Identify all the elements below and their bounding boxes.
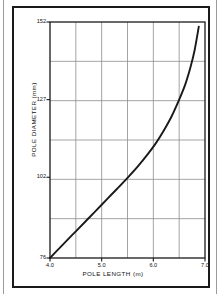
x-axis-title: POLE LENGTH (m) (14, 270, 212, 277)
y-tick-label: 127 (24, 96, 46, 102)
page-margin-rule-left (3, 0, 4, 294)
x-tick-label: 4.0 (37, 262, 63, 268)
page-margin-rule-right (216, 0, 217, 294)
x-tick-label: 5.0 (89, 262, 115, 268)
y-tick-label: 76 (24, 254, 46, 260)
chart-area: POLE DIAMETER (mm) POLE LENGTH (m) 76102… (14, 8, 208, 286)
y-tick-label: 152 (24, 18, 46, 24)
figure-frame: POLE DIAMETER (mm) POLE LENGTH (m) 76102… (12, 6, 210, 288)
pole-diameter-line-chart (14, 8, 212, 290)
y-tick-label: 102 (24, 173, 46, 179)
x-tick-label: 7.0 (192, 262, 218, 268)
y-axis-title: POLE DIAMETER (mm) (30, 65, 37, 175)
x-tick-label: 6.0 (140, 262, 166, 268)
